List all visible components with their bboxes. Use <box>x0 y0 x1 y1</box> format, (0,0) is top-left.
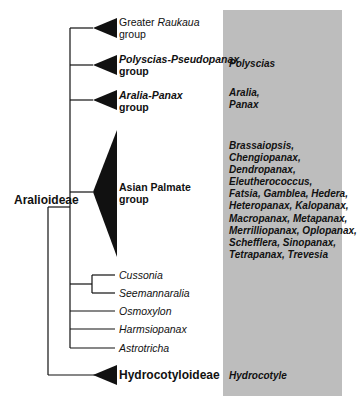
taxon-harmsiopanax: Harmsiopanax <box>119 323 187 335</box>
collapsed-clade-triangle <box>93 18 117 38</box>
group-label-asian-palmate: Asian Palmate group <box>119 181 191 205</box>
collapsed-clade-triangle <box>93 90 117 110</box>
genera-aralia-panax: Aralia, Panax <box>229 87 260 111</box>
genera-hydrocotyle: Hydrocotyle <box>229 370 287 382</box>
taxon-astrotricha: Astrotricha <box>119 342 169 354</box>
collapsed-clade-triangle <box>93 365 117 385</box>
collapsed-clade-triangle <box>93 130 117 257</box>
clade-label-hydrocotyloideae: Hydrocotyloideae <box>119 369 220 381</box>
clade-label-aralioideae: Aralioideae <box>14 194 79 206</box>
taxon-osmoxylon: Osmoxylon <box>119 305 172 317</box>
group-label-polyscias-pseudopanax: Polyscias-Pseudopanax group <box>119 53 239 77</box>
genera-polyscias: Polyscias <box>229 58 275 70</box>
group-label-greater-raukaua: Greater Raukaua group <box>119 16 200 40</box>
genera-asian-palmate: Brassaiopsis, Chengiopanax, Dendropanax,… <box>229 140 357 261</box>
collapsed-clade-triangle <box>93 55 117 75</box>
group-label-aralia-panax: Aralia-Panax group <box>119 89 183 113</box>
taxon-seemannaralia: Seemannaralia <box>119 287 190 299</box>
taxon-cussonia: Cussonia <box>119 269 163 281</box>
